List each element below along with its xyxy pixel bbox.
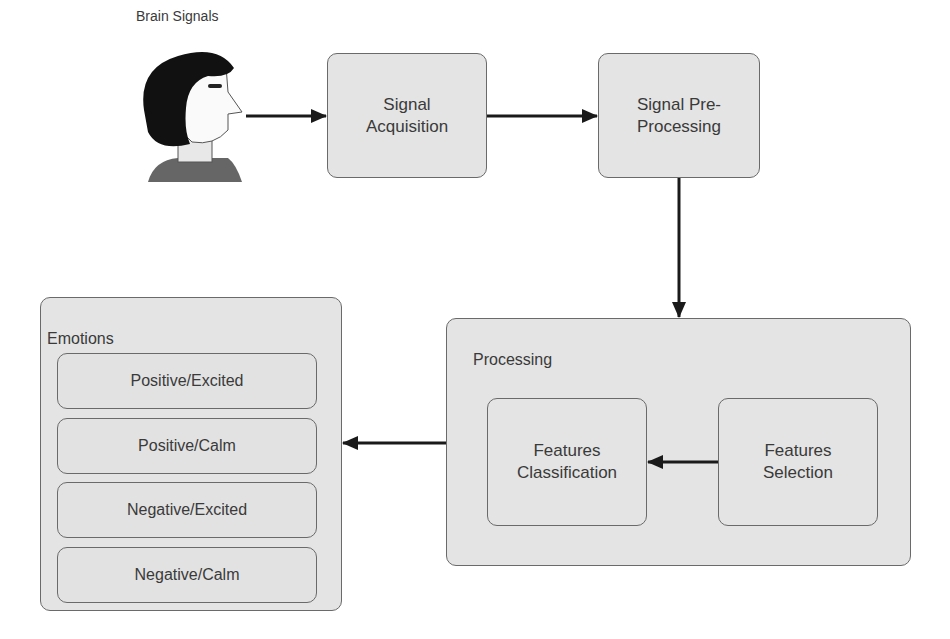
brain-signals-label: Brain Signals — [136, 8, 219, 24]
emotion-negative-calm: Negative/Calm — [57, 547, 317, 603]
emotions-container: Emotions Positive/Excited Positive/Calm … — [40, 297, 342, 611]
features-selection-node: Features Selection — [718, 398, 878, 526]
emotion-positive-excited: Positive/Excited — [57, 353, 317, 409]
features-selection-label: Features Selection — [763, 440, 833, 484]
features-classification-node: Features Classification — [487, 398, 647, 526]
emotions-title: Emotions — [47, 330, 114, 348]
features-classification-label: Features Classification — [517, 440, 617, 484]
emotion-positive-calm: Positive/Calm — [57, 418, 317, 474]
emotion-negative-excited: Negative/Excited — [57, 482, 317, 538]
signal-acquisition-node: Signal Acquisition — [327, 53, 487, 178]
signal-acquisition-label: Signal Acquisition — [366, 94, 448, 138]
processing-title: Processing — [473, 351, 552, 369]
signal-preprocessing-node: Signal Pre- Processing — [598, 53, 760, 178]
signal-preprocessing-label: Signal Pre- Processing — [637, 94, 721, 138]
processing-container: Processing Features Classification Featu… — [446, 318, 911, 566]
person-head-icon — [138, 48, 248, 182]
